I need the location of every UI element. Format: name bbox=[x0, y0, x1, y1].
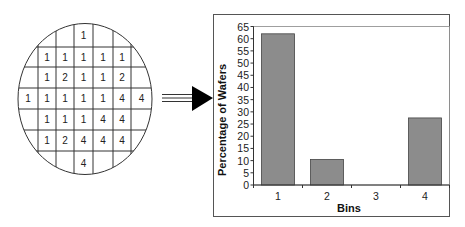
die-bin-label: 1 bbox=[44, 135, 50, 146]
die-bin-label: 1 bbox=[62, 52, 68, 63]
y-tick-label: 60 bbox=[237, 33, 249, 45]
x-tick-label: 2 bbox=[324, 190, 330, 202]
y-tick-label: 45 bbox=[237, 69, 249, 81]
wafer-to-histogram-diagram: 11111112112111114411144124444 0510152025… bbox=[0, 0, 465, 227]
die-bin-label: 1 bbox=[44, 52, 50, 63]
y-tick-label: 5 bbox=[243, 167, 249, 179]
die-bin-label: 1 bbox=[81, 52, 87, 63]
y-axis-title: Percentage of Wafers bbox=[216, 64, 228, 176]
die-bin-label: 4 bbox=[119, 135, 125, 146]
die-bin-label: 1 bbox=[62, 114, 68, 125]
wafer-die-labels: 11111112112111114411144124444 bbox=[25, 30, 145, 169]
y-tick-label: 15 bbox=[237, 142, 249, 154]
die-bin-label: 2 bbox=[62, 72, 68, 83]
y-tick-label: 55 bbox=[237, 45, 249, 57]
die-bin-label: 1 bbox=[44, 93, 50, 104]
x-tick-label: 3 bbox=[373, 190, 379, 202]
y-tick-label: 10 bbox=[237, 155, 249, 167]
die-bin-label: 1 bbox=[44, 114, 50, 125]
y-tick-label: 30 bbox=[237, 106, 249, 118]
x-tick-label: 1 bbox=[275, 190, 281, 202]
x-tick-label: 4 bbox=[422, 190, 428, 202]
y-tick-label: 35 bbox=[237, 94, 249, 106]
die-bin-label: 1 bbox=[100, 72, 106, 83]
die-bin-label: 1 bbox=[100, 52, 106, 63]
bar-bin-4 bbox=[409, 118, 442, 185]
die-bin-label: 4 bbox=[119, 93, 125, 104]
die-bin-label: 4 bbox=[81, 158, 87, 169]
die-bin-label: 1 bbox=[25, 93, 31, 104]
arrow-right-icon bbox=[162, 86, 213, 111]
y-tick-label: 50 bbox=[237, 57, 249, 69]
die-bin-label: 1 bbox=[100, 93, 106, 104]
y-tick-label: 25 bbox=[237, 118, 249, 130]
die-bin-label: 1 bbox=[81, 72, 87, 83]
die-bin-label: 4 bbox=[119, 114, 125, 125]
y-tick-label: 65 bbox=[237, 21, 249, 33]
die-bin-label: 1 bbox=[44, 72, 50, 83]
y-tick-label: 0 bbox=[243, 179, 249, 191]
die-bin-label: 2 bbox=[119, 72, 125, 83]
die-bin-label: 4 bbox=[81, 135, 87, 146]
die-bin-label: 1 bbox=[81, 114, 87, 125]
die-bin-label: 4 bbox=[100, 135, 106, 146]
die-bin-label: 4 bbox=[100, 114, 106, 125]
die-bin-label: 2 bbox=[62, 135, 68, 146]
die-bin-label: 1 bbox=[119, 52, 125, 63]
y-tick-label: 20 bbox=[237, 130, 249, 142]
bin-histogram-chart: 05101520253035404550556065 1234 Percenta… bbox=[214, 15, 450, 217]
bar-bin-2 bbox=[311, 159, 344, 185]
x-axis-title: Bins bbox=[337, 202, 361, 214]
bar-bin-1 bbox=[262, 34, 295, 185]
y-tick-label: 40 bbox=[237, 81, 249, 93]
die-bin-label: 1 bbox=[62, 93, 68, 104]
die-bin-label: 1 bbox=[81, 30, 87, 41]
die-bin-label: 4 bbox=[139, 93, 145, 104]
die-bin-label: 1 bbox=[81, 93, 87, 104]
wafer-map: 11111112112111114411144124444 bbox=[18, 23, 152, 175]
